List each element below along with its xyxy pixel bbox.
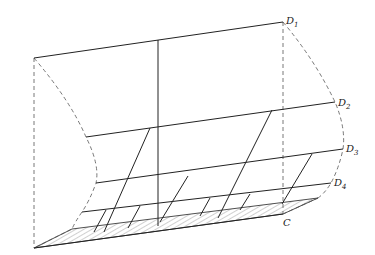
hatched-base-strip bbox=[34, 198, 318, 248]
label-C: C bbox=[283, 217, 291, 228]
label-D3: D3 bbox=[345, 143, 359, 157]
line-D2 bbox=[86, 102, 335, 137]
label-D2: D2 bbox=[337, 97, 351, 111]
geometric-diagram: D1 D2 D3 D4 C bbox=[0, 0, 375, 255]
label-D4: D4 bbox=[333, 177, 347, 191]
label-D1: D1 bbox=[285, 15, 299, 29]
generator-lines bbox=[34, 22, 343, 226]
